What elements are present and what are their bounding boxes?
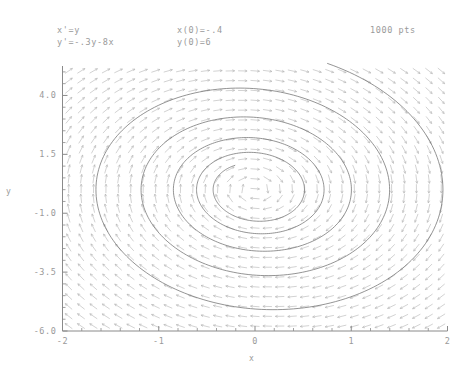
svg-text:0: 0 xyxy=(252,336,258,346)
svg-text:4.0: 4.0 xyxy=(39,90,56,100)
plot-canvas: -2-10124.01.5-1.0-3.5-6.0 xyxy=(0,0,469,371)
svg-text:1.5: 1.5 xyxy=(39,149,56,159)
phase-plane-plot: x'=y y'=-.3y-8x x(0)=-.4 y(0)=6 1000 pts… xyxy=(0,0,469,371)
direction-field xyxy=(65,68,445,329)
svg-text:-1: -1 xyxy=(153,336,164,346)
svg-text:-1.0: -1.0 xyxy=(34,208,57,218)
svg-text:1: 1 xyxy=(348,336,354,346)
svg-text:-2: -2 xyxy=(57,336,68,346)
svg-text:2: 2 xyxy=(445,336,451,346)
svg-text:-3.5: -3.5 xyxy=(34,267,57,277)
svg-text:-6.0: -6.0 xyxy=(34,326,57,336)
